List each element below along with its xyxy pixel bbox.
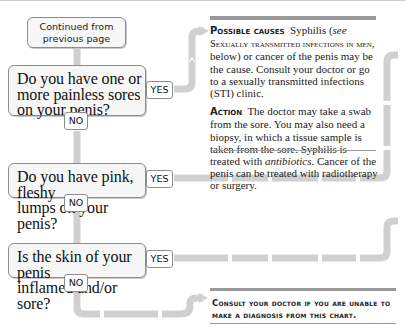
question-1-line-1: Do you have one or (17, 71, 145, 87)
question-3-no-tag: NO (64, 274, 88, 292)
action-paragraph: Action The doctor may take a swab from t… (210, 105, 378, 191)
connector-q1-yes (174, 31, 204, 89)
question-2-no-tag: NO (64, 194, 88, 212)
answer-top-rule (210, 16, 376, 20)
action-heading: Action (210, 106, 242, 117)
question-1-no-tag: NO (64, 112, 88, 130)
causes-text-1: Syphilis ( (290, 24, 332, 36)
question-1-box: Do you have one or more painless sores o… (8, 65, 146, 116)
answer-bottom-rule (210, 150, 376, 151)
question-1-yes-tag: YES (146, 81, 173, 99)
arrowhead-final (199, 293, 208, 303)
question-3-box: Is the skin of your penis inflamed and/o… (8, 243, 146, 278)
question-2-yes-tag: YES (146, 170, 173, 188)
answer-panel: Possible causes Syphilis (see Sexually t… (210, 24, 378, 192)
action-italic: antibiotics (265, 155, 311, 167)
start-label: Continued from previous page (40, 21, 114, 44)
question-2-box: Do you have pink, fleshy lumps on your p… (8, 163, 146, 198)
causes-see: see (333, 24, 347, 36)
causes-cross-reference: Sexually transmitted infections in men (210, 38, 372, 49)
final-note-bottom-rule (210, 323, 396, 324)
possible-causes-paragraph: Possible causes Syphilis (see Sexually t… (210, 24, 378, 99)
continued-from-previous-page-box: Continued from previous page (27, 17, 126, 48)
possible-causes-heading: Possible causes (210, 25, 285, 36)
connector-q3-yes (174, 221, 398, 258)
question-1-line-2: more painless sores (17, 87, 145, 103)
final-note: Consult your doctor if you are unable to… (212, 297, 402, 321)
final-note-top-rule (210, 288, 396, 291)
question-3-yes-tag: YES (146, 250, 173, 268)
